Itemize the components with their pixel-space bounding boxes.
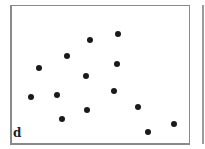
- data-point: [36, 65, 42, 71]
- data-point: [64, 53, 70, 59]
- data-point: [84, 107, 90, 113]
- data-point: [111, 88, 117, 94]
- data-point: [171, 121, 177, 127]
- data-point: [135, 104, 141, 110]
- data-point: [115, 31, 121, 37]
- data-point: [87, 37, 93, 43]
- data-point: [83, 73, 89, 79]
- adjacent-panel-edge: [202, 5, 205, 144]
- data-point: [59, 116, 65, 122]
- data-point: [114, 61, 120, 67]
- data-point: [28, 94, 34, 100]
- scatter-panel: [10, 5, 190, 145]
- data-point: [54, 92, 60, 98]
- panel-label: d: [13, 127, 21, 139]
- data-point: [145, 129, 151, 135]
